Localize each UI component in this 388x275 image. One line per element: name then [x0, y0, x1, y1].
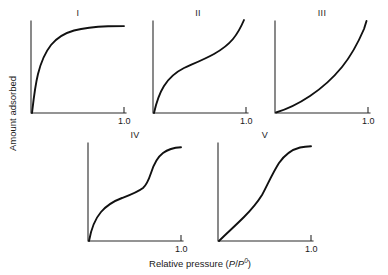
panel-iv-plot	[85, 130, 195, 250]
panel-ii-plot	[150, 8, 260, 128]
x-axis-label-suffix: )	[248, 258, 251, 269]
panel-v-curve	[219, 146, 311, 241]
x-axis-label-prefix: Relative pressure (	[149, 258, 229, 269]
panel-i-curve	[32, 26, 124, 113]
panel-iii-axes	[275, 21, 370, 113]
panel-type-ii: II 1.0	[150, 8, 260, 128]
panel-iv-curve	[89, 147, 181, 241]
panel-iii-curve	[276, 21, 367, 113]
panel-type-v: V 1.0	[215, 130, 325, 250]
adsorption-isotherm-figure: Amount adsorbed I 1.0 II 1.0 III	[0, 0, 388, 275]
panel-i-plot	[28, 8, 138, 128]
panel-v-axes	[218, 143, 313, 241]
x-axis-label: Relative pressure (P/P0)	[120, 255, 280, 269]
panel-type-iv: IV 1.0	[85, 130, 195, 250]
y-axis-label: Amount adsorbed	[7, 69, 18, 159]
panel-v-plot	[215, 130, 325, 250]
panel-title-iii: III	[302, 8, 342, 18]
panel-title-iv: IV	[115, 130, 155, 140]
panel-title-v: V	[245, 130, 285, 140]
panel-iii-plot	[272, 8, 382, 128]
panel-title-ii: II	[178, 8, 218, 18]
panel-ii-xtick-label: 1.0	[240, 116, 253, 126]
panel-i-axes	[31, 21, 126, 113]
panel-title-i: I	[58, 8, 98, 18]
panel-ii-curve	[154, 20, 244, 113]
panel-iii-xtick-label: 1.0	[362, 116, 375, 126]
panel-i-xtick-label: 1.0	[118, 116, 131, 126]
panel-iv-xtick-label: 1.0	[175, 244, 188, 254]
panel-type-i: I 1.0	[28, 8, 138, 128]
panel-v-xtick-label: 1.0	[305, 244, 318, 254]
panel-type-iii: III 1.0	[272, 8, 382, 128]
panel-ii-axes	[153, 21, 248, 113]
